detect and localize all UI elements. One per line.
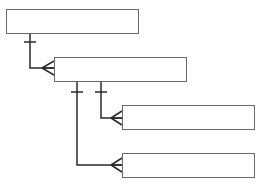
relationship-2-to-3 <box>95 82 122 125</box>
relationship-1-to-2 <box>24 34 54 75</box>
relationship-2-to-4 <box>71 82 122 172</box>
entity-box-3[interactable] <box>122 105 255 130</box>
entity-box-4[interactable] <box>122 153 255 178</box>
entity-box-2[interactable] <box>54 57 187 82</box>
crows-foot-icon <box>111 111 122 125</box>
crows-foot-icon <box>111 158 122 172</box>
crows-foot-icon <box>42 61 54 75</box>
entity-box-1[interactable] <box>6 9 139 34</box>
